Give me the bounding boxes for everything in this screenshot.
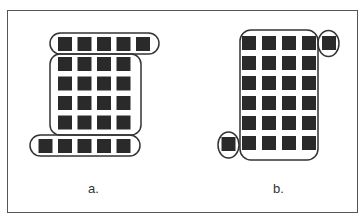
panel-a: [30, 33, 159, 156]
top-row-squares: [58, 37, 150, 51]
panel-b-label: b.: [273, 181, 284, 196]
main-block-squares: [242, 36, 316, 150]
panel-b: [218, 30, 339, 160]
middle-block-squares: [58, 57, 131, 130]
diagram-canvas: [0, 0, 364, 220]
bottom-left-square: [222, 137, 236, 151]
top-right-square: [322, 36, 336, 50]
panel-a-label: a.: [88, 181, 99, 196]
bottom-row-squares: [39, 139, 131, 153]
